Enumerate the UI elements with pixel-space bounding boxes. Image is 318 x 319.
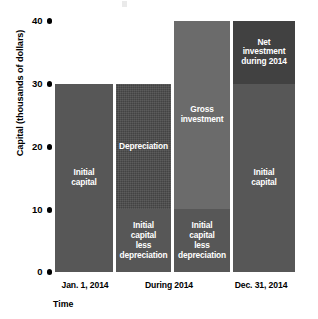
y-tick-label-10: 10 <box>32 205 43 215</box>
segment-depreciation[interactable]: Depreciation <box>116 84 171 210</box>
segment-initial-capital-less-depreciation[interactable]: Initial capital less depreciation <box>174 209 230 272</box>
top-crop-artifact <box>122 1 127 7</box>
y-axis-title: Capital (thousands of dollars) <box>15 0 25 203</box>
y-tick-30: 30 <box>22 77 52 91</box>
y-tick-label-30: 30 <box>32 79 43 89</box>
y-tick-dot-icon <box>47 81 53 87</box>
segment-label: Initial capital less depreciation <box>177 221 227 261</box>
y-tick-0: 0 <box>22 265 52 279</box>
plot-area: Initial capital Depreciation Initial cap… <box>55 21 295 272</box>
segment-label: Initial capital <box>70 168 97 188</box>
segment-initial-capital[interactable]: Initial capital <box>233 84 295 272</box>
y-tick-10: 10 <box>22 203 52 217</box>
y-tick-label-20: 20 <box>32 142 43 152</box>
segment-label: Net investment during 2014 <box>240 38 287 68</box>
segment-label: Initial capital less depreciation <box>119 221 169 261</box>
y-tick-40: 40 <box>22 14 52 28</box>
segment-gross-investment[interactable]: Gross investment <box>174 21 230 209</box>
bar-final-capital[interactable]: Net investment during 2014 Initial capit… <box>233 21 295 272</box>
x-axis-title: Time <box>53 299 73 309</box>
segment-label: Initial capital <box>250 168 277 188</box>
y-tick-label-0: 0 <box>37 267 42 277</box>
y-tick-dot-icon <box>47 269 53 275</box>
x-tick-label-dec: Dec. 31, 2014 <box>222 280 300 290</box>
capital-accumulation-chart: Capital (thousands of dollars) 40 30 20 … <box>0 0 318 319</box>
bar-depreciation[interactable]: Depreciation Initial capital less deprec… <box>116 84 171 272</box>
segment-label: Gross investment <box>180 105 225 125</box>
y-tick-dot-icon <box>47 207 53 213</box>
bar-initial-capital[interactable]: Initial capital <box>55 84 113 272</box>
segment-net-investment[interactable]: Net investment during 2014 <box>233 21 295 84</box>
segment-initial-capital-less-depreciation[interactable]: Initial capital less depreciation <box>116 209 171 272</box>
y-tick-dot-icon <box>47 144 53 150</box>
segment-label: Depreciation <box>118 142 169 152</box>
x-tick-label-jan: Jan. 1, 2014 <box>52 280 118 290</box>
y-tick-20: 20 <box>22 140 52 154</box>
y-tick-label-40: 40 <box>32 16 43 26</box>
y-tick-dot-icon <box>47 18 53 24</box>
bar-gross-investment[interactable]: Gross investment Initial capital less de… <box>174 21 230 272</box>
x-tick-label-during: During 2014 <box>136 280 202 290</box>
segment-initial-capital[interactable]: Initial capital <box>55 84 113 272</box>
